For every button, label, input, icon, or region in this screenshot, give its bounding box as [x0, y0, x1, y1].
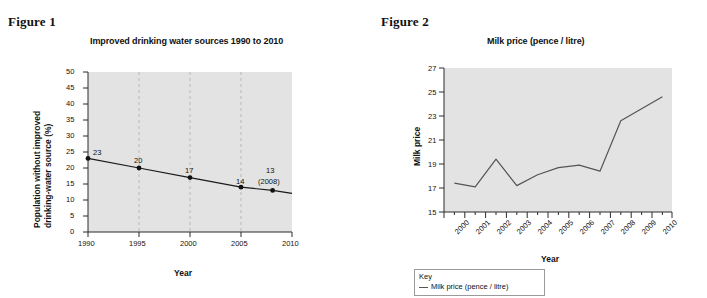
f2-ytick-19: 19 [428, 160, 436, 169]
f1-xtick-2005: 2005 [231, 239, 248, 248]
f2-xtick-2007: 2007 [599, 218, 617, 236]
f1-ytick-50: 50 [66, 67, 74, 76]
f2-xtick-2002: 2002 [495, 218, 513, 236]
f1-ytick-0: 0 [70, 227, 74, 236]
f2-xtick-2004: 2004 [536, 218, 554, 236]
f2-ytick-25: 25 [428, 88, 436, 97]
f1-xtick-2000: 2000 [180, 239, 197, 248]
f2-ytick-21: 21 [428, 136, 436, 145]
figure-2-ylabel: Milk price [412, 127, 422, 166]
f2-xtick-2008: 2008 [619, 218, 637, 236]
f2-xtick-2006: 2006 [578, 218, 596, 236]
f1-xtick-1990: 1990 [78, 239, 95, 248]
f2-xtick-2005: 2005 [557, 218, 575, 236]
f1-point-label-13: 13 [266, 166, 274, 175]
f1-ytick-20: 20 [66, 163, 74, 172]
figure-2-key: Key Milk price (pence / litre) [414, 269, 545, 296]
figure-2-xlabel: Year [541, 254, 559, 264]
f2-xtick-2010: 2010 [661, 218, 679, 236]
figure-1-ylabel-line1: Population without improved [32, 111, 42, 228]
f2-xtick-2000: 2000 [453, 218, 471, 236]
line-swatch-icon [419, 287, 428, 288]
f2-ytick-27: 27 [428, 64, 436, 73]
key-entry-row: Milk price (pence / litre) [419, 282, 539, 292]
f2-xtick-2003: 2003 [515, 218, 533, 236]
f1-point-label-20: 20 [134, 156, 142, 165]
figure-1-ylabel-line2: drinking-water source (%) [43, 124, 53, 228]
figure-1-xlabel: Year [174, 268, 192, 278]
f1-ytick-10: 10 [66, 195, 74, 204]
f1-point-label-2008: (2008) [258, 177, 280, 186]
f1-ytick-45: 45 [66, 83, 74, 92]
plot-background [444, 68, 672, 212]
figure-2-plot [430, 60, 680, 220]
f1-ytick-5: 5 [70, 211, 74, 220]
figure-2-label: Figure 2 [381, 14, 429, 30]
y-axis-ticks [439, 68, 444, 212]
f1-ytick-15: 15 [66, 179, 74, 188]
f2-xtick-2009: 2009 [640, 218, 658, 236]
y-axis-ticks [83, 72, 88, 232]
f2-xtick-2001: 2001 [474, 218, 492, 236]
x-axis-ticks [88, 232, 292, 237]
f2-ytick-17: 17 [428, 184, 436, 193]
key-entry-label: Milk price (pence / litre) [431, 282, 509, 292]
f1-xtick-2010: 2010 [282, 239, 299, 248]
f1-point-label-17: 17 [185, 166, 193, 175]
figure-2-title: Milk price (pence / litre) [487, 36, 584, 46]
f1-ytick-25: 25 [66, 147, 74, 156]
figure-1-title: Improved drinking water sources 1990 to … [90, 36, 283, 46]
f1-ytick-30: 30 [66, 131, 74, 140]
f1-point-label-23: 23 [93, 148, 101, 157]
f2-ytick-23: 23 [428, 112, 436, 121]
figure-1-label: Figure 1 [8, 14, 56, 30]
f1-point-label-14: 14 [236, 177, 244, 186]
f2-ytick-15: 15 [428, 208, 436, 217]
f1-xtick-1995: 1995 [129, 239, 146, 248]
f1-ytick-35: 35 [66, 115, 74, 124]
key-title: Key [419, 272, 539, 282]
f1-ytick-40: 40 [66, 99, 74, 108]
